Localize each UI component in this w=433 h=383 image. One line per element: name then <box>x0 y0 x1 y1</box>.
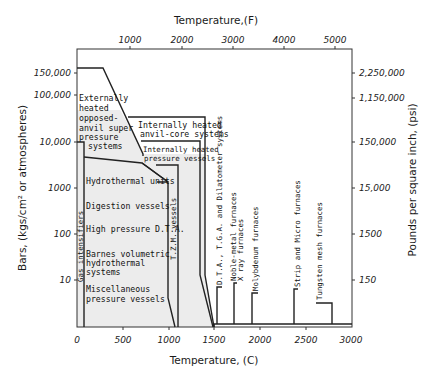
y-tick-1000: 1000 <box>48 183 71 193</box>
label-ext-heated-6: systems <box>88 141 123 151</box>
label-int-vessels-1: Internally heated <box>143 145 219 154</box>
x-top-tick-5000: 5000 <box>324 35 347 45</box>
noble-xray-outline <box>234 283 237 324</box>
label-tzm: T.Z.M. vessels <box>169 198 178 260</box>
label-hydrothermal: Hydrothermal units <box>86 176 175 186</box>
label-gas-intensifiers: Gas intensifiers <box>76 211 85 282</box>
label-barnes-3: systems <box>86 267 121 277</box>
label-xray: X ray furnaces <box>236 219 245 281</box>
y-tick-10: 10 <box>60 275 72 285</box>
y-tick-10000: 10,000 <box>40 137 72 147</box>
label-misc-2: pressure vessels <box>86 294 165 304</box>
label-dta: D.T.A., T.G.A. and Dilatometer systems <box>215 116 224 285</box>
y-right-tick-150000: 150,000 <box>359 137 396 147</box>
x-tick-2000: 2000 <box>249 335 272 345</box>
x-tick-2500: 2500 <box>295 335 318 345</box>
moly-outline <box>252 293 258 324</box>
label-moly: Molybdenum furnaces <box>251 206 260 291</box>
x-tick-0: 0 <box>74 335 80 345</box>
x-tick-1500: 1500 <box>203 335 226 345</box>
x-top-tick-1000: 1000 <box>119 35 142 45</box>
right-axis-title: Pounds per square inch, (psi) <box>406 104 418 257</box>
pressure-temperature-chart: 150,000 100,000 10,000 1000 100 10 2,250… <box>0 0 433 383</box>
right-axis-labels: 2,250,000 1,150,000 150,000 15,000 1500 … <box>359 68 405 285</box>
dta-outline <box>217 287 222 324</box>
label-ext-heated-2: heated <box>79 103 109 113</box>
tungsten-outline <box>316 303 332 324</box>
top-axis-labels: 1000 2000 3000 4000 5000 <box>119 35 347 45</box>
y-right-tick-1150000: 1,150,000 <box>359 93 405 103</box>
left-axis-title: Bars, (kgs/cm² or atmospheres) <box>16 105 28 271</box>
y-tick-100000: 100,000 <box>34 90 71 100</box>
bottom-axis-title: Temperature, (C) <box>169 354 259 366</box>
x-top-tick-4000: 4000 <box>273 35 296 45</box>
x-tick-3000: 3000 <box>340 335 363 345</box>
label-misc-1: Miscellaneous <box>86 284 150 294</box>
label-int-vessels-2: pressure vessels <box>144 154 215 163</box>
y-right-tick-2250000: 2,250,000 <box>359 68 405 78</box>
label-strip: Strip and Micro furnaces <box>293 180 302 287</box>
x-top-tick-2000: 2000 <box>171 35 194 45</box>
label-ext-heated-1: Externally <box>79 93 128 103</box>
label-tungsten: Tungsten mesh furnaces <box>315 202 324 300</box>
strip-outline <box>294 289 298 324</box>
y-tick-150000: 150,000 <box>34 68 71 78</box>
x-tick-500: 500 <box>114 335 131 345</box>
top-axis-title: Temperature,(F) <box>173 14 258 26</box>
x-tick-1000: 1000 <box>158 335 181 345</box>
y-right-tick-15000: 15,000 <box>359 183 391 193</box>
bottom-axis-labels: 0 500 1000 1500 2000 2500 3000 <box>74 335 363 345</box>
label-ext-heated-3: opposed- <box>79 113 118 123</box>
y-right-tick-1500: 1500 <box>359 229 382 239</box>
label-digestion: Digestion vessels <box>86 201 170 211</box>
x-top-tick-3000: 3000 <box>222 35 245 45</box>
y-right-tick-150: 150 <box>359 275 376 285</box>
left-axis-labels: 150,000 100,000 10,000 1000 100 10 <box>34 68 71 285</box>
y-tick-100: 100 <box>54 229 71 239</box>
